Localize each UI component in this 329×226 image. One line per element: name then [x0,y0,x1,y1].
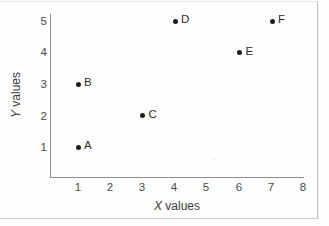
data-point [237,50,242,55]
data-point-label: C [149,108,157,120]
x-tick-label-2: 2 [102,181,118,193]
data-point-label: A [84,139,92,151]
data-point [76,145,81,150]
data-point [76,82,81,87]
x-axis-title-rest: values [165,199,200,213]
y-axis-title-rest: values [9,72,23,107]
x-axis-title-italic: X [154,199,162,213]
x-axis-line [50,177,304,178]
y-axis-title: Y values [9,55,23,135]
x-tick-label-7: 7 [263,181,279,193]
y-tick-label-3: 3 [33,78,47,90]
data-point-label: D [181,13,189,25]
y-tick-label-1: 1 [33,141,47,153]
scan-speck [214,158,217,161]
plot-area: 1 2 3 4 5 6 7 8 1 2 3 4 5 A B C D E F X … [0,0,329,226]
x-tick-label-3: 3 [134,181,150,193]
x-tick-label-4: 4 [166,181,182,193]
x-tick-label-1: 1 [70,181,86,193]
x-tick-label-5: 5 [198,181,214,193]
data-point [270,19,275,24]
y-axis-title-italic: Y [9,110,23,118]
y-axis-line [50,14,51,178]
data-point-label: F [278,13,285,25]
scatter-plot-figure: 1 2 3 4 5 6 7 8 1 2 3 4 5 A B C D E F X … [0,0,329,226]
x-axis-title: X values [50,199,304,213]
y-tick-label-5: 5 [33,15,47,27]
data-point-label: B [84,76,92,88]
x-tick-label-8: 8 [295,181,311,193]
data-point [140,113,145,118]
y-tick-label-4: 4 [33,46,47,58]
x-tick-label-6: 6 [231,181,247,193]
data-point-label: E [246,45,254,57]
data-point [173,19,178,24]
y-tick-label-2: 2 [33,110,47,122]
